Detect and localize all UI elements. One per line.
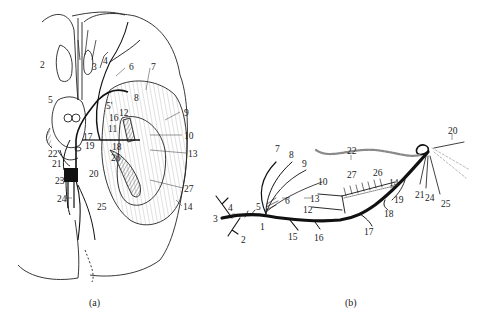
b-label-25: 25 [441,199,451,209]
b-label-24: 24 [425,193,435,203]
b-label-15: 15 [288,232,298,242]
a-label-5p: 5' [106,101,112,111]
b-label-16: 16 [314,233,324,243]
a-label-2: 2 [40,60,45,70]
b-label-10: 10 [318,177,328,187]
b-label-9: 9 [302,159,307,169]
b-label-22: 22 [347,146,357,156]
a-label-10: 10 [184,131,194,141]
a-label-11: 11 [108,124,117,134]
diagram-canvas [0,0,481,316]
basilar-block [64,168,78,182]
panel-a-caption: (a) [89,297,100,308]
b-label-4: 4 [228,203,233,213]
a-label-7: 7 [151,62,156,72]
a-label-8: 8 [134,93,139,103]
a-label-14: 14 [183,202,193,212]
b-label-12: 12 [303,205,313,215]
b-label-8: 8 [289,150,294,160]
b-label-17: 17 [364,227,374,237]
a-label-24: 24 [57,194,67,204]
a-label-19: 19 [85,141,95,151]
b-label-19: 19 [394,195,404,205]
b-label-21: 21 [415,190,425,200]
panel-b-vessel-tree [216,142,470,236]
b-label-7: 7 [275,144,280,154]
b-label-13: 13 [310,194,320,204]
a-label-22: 22 [48,149,58,159]
a-label-3: 3 [92,62,97,72]
a-label-25: 25 [97,202,107,212]
panel-b-caption: (b) [345,297,357,308]
b-label-27: 27 [347,170,357,180]
a-label-20: 20 [89,169,99,179]
a-label-27: 27 [184,184,194,194]
a-label-5: 5 [48,95,53,105]
panel-a-brain [18,12,187,282]
b-label-5: 5 [256,202,261,212]
a-label-18: 18 [112,142,122,152]
a-label-16: 16 [109,113,119,123]
b-label-2: 2 [241,235,246,245]
b-label-18: 18 [384,209,394,219]
a-label-12: 12 [119,108,129,118]
b-label-6: 6 [285,196,290,206]
b-label-1: 1 [260,222,265,232]
b-label-14: 14 [389,178,399,188]
b-label-26: 26 [373,168,383,178]
a-label-26: 26 [111,153,121,163]
b-label-20: 20 [448,126,458,136]
a-label-21: 21 [52,159,62,169]
a-label-9: 9 [184,108,189,118]
b-label-3: 3 [213,214,218,224]
a-label-6: 6 [129,62,134,72]
a-label-23: 23 [55,176,65,186]
a-label-13: 13 [188,149,198,159]
a-label-4: 4 [103,56,108,66]
